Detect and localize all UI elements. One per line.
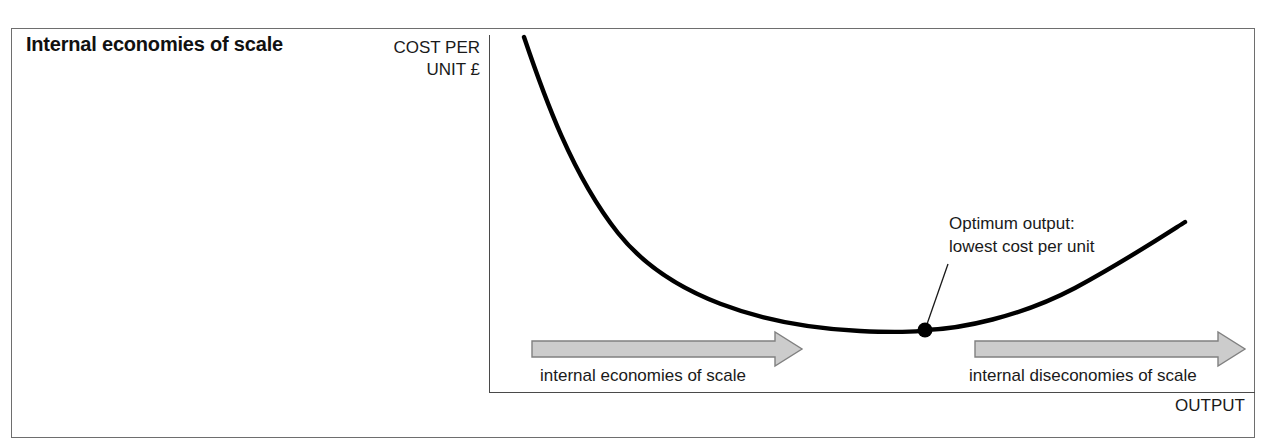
economies-arrow-caption: internal economies of scale	[540, 366, 746, 386]
diseconomies-arrow-caption: internal diseconomies of scale	[969, 366, 1197, 386]
economies-arrow-icon	[532, 332, 802, 366]
diseconomies-arrow-icon	[975, 332, 1245, 366]
